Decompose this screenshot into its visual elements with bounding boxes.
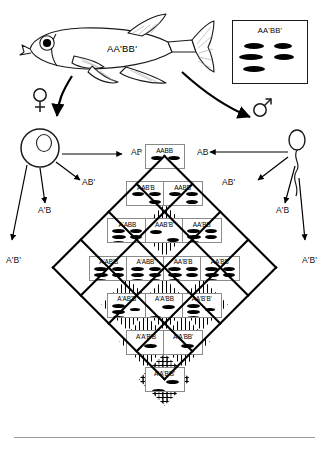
- punnett-cell: AABB': [163, 181, 203, 206]
- punnett-cell-genotype: A'ABB: [108, 221, 146, 228]
- punnett-cell-spot-pattern: [90, 266, 128, 279]
- punnett-cell-spot-pattern: [146, 154, 184, 167]
- phenotype-spot: [112, 241, 125, 243]
- phenotype-spot: [112, 229, 125, 233]
- punnett-cell: AAB'B: [126, 181, 166, 206]
- phenotype-spot: [112, 316, 125, 318]
- phenotype-spot: [149, 316, 162, 318]
- punnett-cell: AA'BB': [200, 256, 240, 281]
- punnett-cell-spot-pattern: [127, 340, 165, 353]
- phenotype-spot: [166, 380, 179, 384]
- phenotype-spot: [223, 267, 235, 271]
- phenotype-spot: [181, 344, 194, 348]
- punnett-cell-spot-pattern: [183, 228, 221, 241]
- punnett-cell: A'A'B'B': [145, 367, 185, 392]
- phenotype-spot: [187, 316, 200, 318]
- punnett-cell: AA'B'B': [182, 293, 222, 318]
- phenotype-spot: [131, 267, 144, 271]
- punnett-cell-spot-pattern: [164, 266, 202, 279]
- phenotype-spot: [205, 229, 217, 233]
- phenotype-spot: [168, 156, 180, 160]
- punnett-cell-spot-pattern: [146, 228, 184, 241]
- phenotype-spot: [186, 267, 198, 271]
- punnett-cell: A'ABB': [126, 256, 166, 281]
- punnett-cell-genotype: AABB: [146, 147, 184, 154]
- phenotype-spot: [169, 192, 181, 196]
- phenotype-spot: [205, 279, 218, 281]
- phenotype-spot: [149, 273, 161, 277]
- phenotype-spot: [94, 273, 108, 277]
- punnett-cell-genotype: A'AB'B: [90, 258, 128, 265]
- phenotype-spot: [94, 279, 107, 281]
- punnett-cell-genotype: A'A'B'B': [146, 370, 184, 377]
- phenotype-spot: [112, 267, 124, 271]
- punnett-cell-spot-pattern: [127, 266, 165, 279]
- phenotype-spot: [112, 235, 126, 239]
- punnett-cell: A'AB'B: [89, 256, 129, 281]
- phenotype-spot: [187, 229, 200, 233]
- punnett-cell-genotype: AA'B'B': [183, 295, 221, 302]
- punnett-cell-spot-pattern: [164, 340, 202, 353]
- phenotype-spot: [205, 235, 217, 239]
- punnett-cell-genotype: AABB': [164, 184, 202, 191]
- punnett-cell: AABB: [145, 144, 185, 169]
- phenotype-spot: [130, 308, 140, 312]
- punnett-cell-spot-pattern: [201, 266, 239, 279]
- phenotype-spot: [187, 235, 201, 239]
- punnett-cell-spot-pattern: [108, 228, 146, 241]
- punnett-cell: AA'BB: [182, 218, 222, 243]
- phenotype-spot: [149, 200, 161, 204]
- phenotype-spot: [187, 310, 200, 314]
- phenotype-spot: [168, 279, 181, 281]
- phenotype-spot: [223, 273, 235, 277]
- phenotype-spot: [131, 273, 144, 277]
- phenotype-spot: [187, 241, 200, 243]
- punnett-cell-spot-pattern: [164, 191, 202, 204]
- phenotype-spot: [132, 192, 144, 196]
- phenotype-spot: [205, 308, 215, 312]
- phenotype-spot: [168, 267, 181, 271]
- punnett-cell-genotype: A'A'BB': [164, 333, 202, 340]
- phenotype-spot: [149, 192, 161, 196]
- phenotype-spot: [168, 354, 181, 355]
- punnett-cell-genotype: A'A'BB: [146, 295, 184, 302]
- punnett-cell: AA'B'B: [163, 256, 203, 281]
- phenotype-spot: [205, 267, 218, 271]
- punnett-cell: A'A'B'B: [126, 330, 166, 355]
- punnett-cell: A'AB'B': [107, 293, 147, 318]
- phenotype-spot: [130, 229, 142, 233]
- punnett-cell-genotype: AAB'B': [146, 221, 184, 228]
- phenotype-spot: [130, 235, 142, 239]
- phenotype-spot: [94, 267, 107, 271]
- phenotype-spot: [186, 192, 198, 196]
- punnett-cell: A'A'BB: [145, 293, 185, 318]
- phenotype-spot: [131, 354, 144, 355]
- phenotype-spot: [168, 273, 182, 277]
- punnett-cell-genotype: A'A'B'B: [127, 333, 165, 340]
- phenotype-spot: [186, 200, 198, 204]
- phenotype-spot: [112, 310, 125, 314]
- punnett-cell-spot-pattern: [146, 377, 184, 390]
- punnett-cell-spot-pattern: [108, 303, 146, 316]
- bottom-divider: [14, 437, 315, 438]
- phenotype-spot: [149, 267, 161, 271]
- punnett-cell-genotype: AA'B'B: [164, 258, 202, 265]
- phenotype-spot: [112, 304, 125, 308]
- punnett-cell-genotype: AA'BB: [183, 221, 221, 228]
- phenotype-spot: [149, 279, 161, 281]
- punnett-cell-genotype: A'AB'B': [108, 295, 146, 302]
- genetics-punnett-diagram: AA'BB' AA'BB': [0, 0, 329, 455]
- punnett-cell-genotype: AAB'B: [127, 184, 165, 191]
- phenotype-spot: [150, 230, 162, 234]
- phenotype-spot: [144, 344, 157, 348]
- punnett-cell: A'A'BB': [163, 330, 203, 355]
- phenotype-spot: [112, 273, 124, 277]
- punnett-cell-genotype: AA'BB': [201, 258, 239, 265]
- punnett-cell: A'ABB: [107, 218, 147, 243]
- punnett-cell-spot-pattern: [146, 303, 184, 316]
- phenotype-spot: [151, 156, 163, 160]
- punnett-cell-spot-pattern: [183, 303, 221, 316]
- phenotype-spot: [152, 389, 165, 392]
- punnett-square-grid: AABBAAB'BAABB'A'ABBAAB'B'AA'BBA'AB'BA'AB…: [0, 0, 329, 455]
- phenotype-spot: [167, 238, 179, 242]
